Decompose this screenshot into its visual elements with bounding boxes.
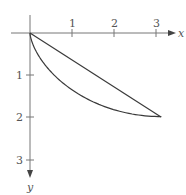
x-axis-label: x [178,27,185,40]
x-tick-label-1: 1 [69,17,76,30]
y-ticks: 1 2 3 [16,69,34,167]
straight-line-path [30,33,161,117]
x-tick-label-2: 2 [111,17,118,30]
y-axis-arrow-icon [27,170,33,178]
y-tick-label-3: 3 [16,154,23,167]
x-ticks: 1 2 3 [69,17,160,37]
brachistochrone-diagram: x y 1 2 3 1 2 3 [0,0,186,195]
y-axis-label: y [26,181,34,194]
x-tick-label-3: 3 [153,17,160,30]
y-tick-label-1: 1 [16,69,23,82]
y-tick-label-2: 2 [16,111,23,124]
x-axis-arrow-icon [168,30,176,36]
